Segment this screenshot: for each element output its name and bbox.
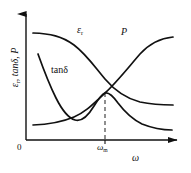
epsilon-subscript: r — [81, 29, 83, 36]
omega-m-subscript: m — [103, 147, 107, 153]
curve-p — [33, 37, 173, 125]
curve-label-tan-delta: tanδ — [51, 65, 68, 75]
y-axis-label-epsilon: ε — [9, 83, 20, 87]
y-axis-label: εr, tanδ, P — [9, 28, 20, 108]
origin-label: 0 — [17, 143, 22, 152]
curve-label-p: P — [121, 27, 127, 37]
x-tick-label-omega-m: ωm — [97, 143, 108, 152]
y-axis-label-rest: , tanδ, P — [9, 48, 20, 82]
dielectric-relaxation-figure: εr, tanδ, P 0 ω ωm εr P tanδ — [0, 0, 191, 173]
plot-canvas — [0, 0, 191, 173]
curve-label-epsilon-r: εr — [77, 25, 83, 35]
x-axis-label: ω — [132, 153, 139, 163]
y-axis-label-subscript: r — [13, 81, 20, 83]
